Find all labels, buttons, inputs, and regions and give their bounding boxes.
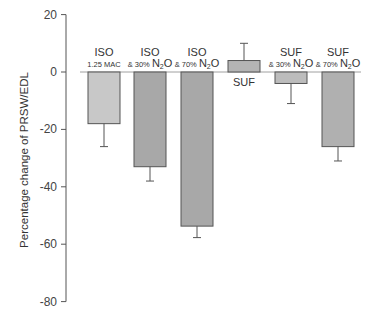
y-tick-label: 20 [44, 8, 58, 22]
bar [134, 72, 166, 167]
bar-chart: 200-20-40-60-80 ISO1.25 MACISO& 30% N2OI… [0, 0, 380, 318]
bars [88, 43, 354, 237]
y-axis-label: Percentage change of PRSW/EDL [18, 72, 30, 248]
category-label: SUF [233, 76, 255, 88]
category-sublabel: & 30% N2O [128, 57, 173, 70]
bar [181, 72, 213, 226]
category-sublabel: & 70% N2O [316, 57, 361, 70]
category-label: ISO [95, 46, 114, 58]
y-tick-label: -20 [40, 122, 58, 136]
category-labels: ISO1.25 MACISO& 30% N2OISO& 70% N2OSUFSU… [87, 46, 360, 88]
bar [275, 72, 307, 83]
bar [88, 72, 120, 124]
y-tick-label: -40 [40, 180, 58, 194]
category-sublabel: & 30% N2O [269, 57, 314, 70]
bar [322, 72, 354, 147]
y-axis: 200-20-40-60-80 [40, 8, 66, 309]
bar [228, 61, 260, 72]
y-tick-label: 0 [50, 65, 57, 79]
category-sublabel: & 70% N2O [175, 57, 220, 70]
y-tick-label: -60 [40, 237, 58, 251]
category-sublabel: 1.25 MAC [87, 60, 121, 69]
y-tick-label: -80 [40, 295, 58, 309]
